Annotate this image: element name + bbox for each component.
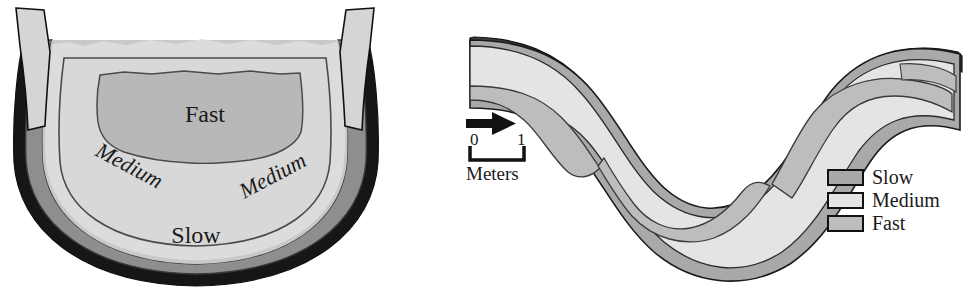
legend-swatch-medium	[828, 193, 863, 208]
scale-bar-group: 0 1 Meters	[466, 112, 526, 184]
cross-section-label-fast: Fast	[185, 101, 225, 127]
legend-swatch-fast	[828, 216, 863, 231]
legend-item-fast: Fast	[828, 212, 906, 234]
legend-label-slow: Slow	[872, 166, 914, 188]
channel-cross-section-panel: Fast Medium Medium Slow	[14, 8, 379, 286]
legend-item-medium: Medium	[828, 189, 940, 211]
legend-label-fast: Fast	[872, 212, 906, 234]
scale-units-label: Meters	[466, 163, 519, 184]
legend-swatch-slow	[828, 170, 863, 185]
cross-section-label-slow: Slow	[171, 222, 221, 248]
figure-root: Fast Medium Medium Slow	[0, 0, 967, 297]
meander-plan-view-panel: 0 1 Meters Slow Medium Fast	[466, 37, 962, 281]
figure-svg: Fast Medium Medium Slow	[0, 0, 967, 297]
legend: Slow Medium Fast	[828, 166, 940, 234]
legend-item-slow: Slow	[828, 166, 914, 188]
legend-label-medium: Medium	[872, 189, 940, 211]
